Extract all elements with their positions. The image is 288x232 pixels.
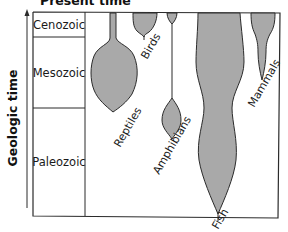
reptiles-spindle	[91, 13, 137, 112]
era-column	[33, 12, 85, 216]
era-cenozoic: Cenozoic	[33, 18, 85, 32]
era-paleozoic: Paleozoic	[32, 155, 85, 169]
era-mesozoic: Mesozoic	[33, 66, 86, 80]
fish-spindle	[196, 13, 244, 214]
label-reptiles: Reptiles	[111, 105, 144, 150]
evolution-spindle-diagram: Present time Geologic time Cenozoic Meso…	[0, 0, 288, 232]
time-axis-arrow	[25, 9, 30, 208]
amphibians-spindle-top	[167, 13, 177, 24]
geologic-time-label: Geologic time	[5, 70, 20, 167]
label-fish: Fish	[209, 207, 231, 232]
present-time-title: Present time	[40, 0, 131, 8]
